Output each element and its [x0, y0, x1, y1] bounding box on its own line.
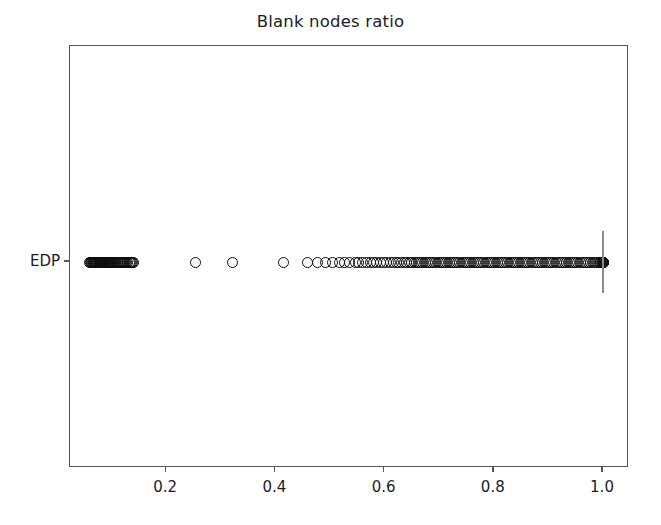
- x-tick-label: 1.0: [590, 478, 614, 496]
- scatter-point: [227, 257, 238, 268]
- scatter-points-layer: [70, 46, 627, 466]
- chart-title: Blank nodes ratio: [0, 12, 661, 31]
- x-tick-mark: [601, 467, 602, 472]
- x-tick-mark: [274, 467, 275, 472]
- scatter-point: [128, 257, 139, 268]
- x-tick-mark: [383, 467, 384, 472]
- x-tick-mark: [492, 467, 493, 472]
- y-tick-label: EDP: [30, 252, 60, 270]
- scatter-point: [278, 257, 289, 268]
- x-tick-mark: [165, 467, 166, 472]
- reference-line: [602, 231, 604, 293]
- plot-area: [69, 45, 628, 467]
- x-tick-label: 0.2: [153, 478, 177, 496]
- chart-figure: Blank nodes ratio 0.20.40.60.81.0 EDP: [0, 0, 661, 525]
- x-tick-label: 0.8: [481, 478, 505, 496]
- x-tick-label: 0.6: [372, 478, 396, 496]
- y-tick-mark: [64, 260, 69, 261]
- x-tick-label: 0.4: [262, 478, 286, 496]
- scatter-point: [190, 257, 201, 268]
- scatter-point: [302, 257, 313, 268]
